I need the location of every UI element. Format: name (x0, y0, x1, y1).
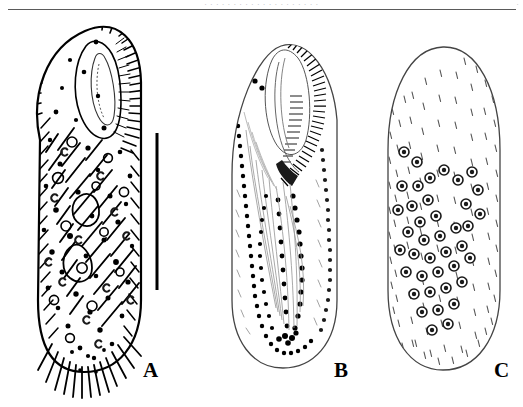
figure-page: · · · · · · · · · · · · · · · · · · · · … (0, 0, 523, 407)
panel-label-a: A (143, 360, 158, 381)
panel-a-drawing (24, 10, 146, 398)
panel-b-drawing (232, 40, 337, 368)
figure-canvas (0, 0, 523, 407)
panel-label-b: B (334, 360, 348, 381)
panel-c-drawing (388, 47, 500, 370)
panel-label-c: C (494, 360, 509, 381)
